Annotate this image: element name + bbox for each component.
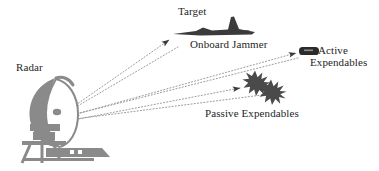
radar-mount-block [30, 124, 60, 131]
active-expendables-label-line1: Active [318, 44, 348, 56]
target-aircraft-body [173, 17, 255, 36]
target-to-radar-return [64, 47, 178, 114]
passive-expendable-chaff [242, 71, 286, 106]
passive-expendables-label: Passive Expendables [205, 108, 299, 120]
radar-platform-window-2 [78, 150, 82, 154]
target-label: Target [178, 6, 206, 18]
radar-mount-pedestal [33, 132, 55, 140]
diagram-canvas [0, 0, 379, 171]
radar-feed-horn [53, 109, 61, 115]
active-expendables-label-line2: Expendables [310, 57, 367, 69]
radar-platform-rail [24, 158, 94, 161]
radar-ecm-diagram: Target Onboard Jammer Radar Active Expen… [0, 0, 379, 171]
active-expendable-pod-stripe [304, 50, 313, 52]
onboard-jammer-label: Onboard Jammer [190, 39, 267, 51]
radar-platform-window-1 [70, 150, 74, 154]
active-expendables-label: Active Expendables [318, 45, 367, 69]
active-expendable-pod [299, 47, 319, 55]
target-aircraft-tailplane [226, 30, 252, 32]
radar-label: Radar [16, 62, 43, 74]
target-aircraft [173, 17, 255, 36]
radar-base-plate [22, 141, 66, 145]
